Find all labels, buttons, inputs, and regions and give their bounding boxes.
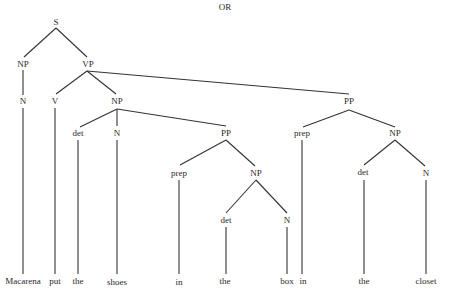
leaf-word: put [49,276,61,286]
node-det-object: det [73,128,84,138]
leaf-word: the [73,276,84,286]
node-np-outer: NP [389,128,401,138]
node-n-subject: N [20,96,27,106]
node-det-outer: det [358,167,369,177]
node-pp-inner: PP [221,128,231,138]
node-v: V [52,96,59,106]
leaf-word: the [359,276,370,286]
node-np-subject: NP [17,59,29,69]
leaf-word: closet [416,276,437,286]
node-prep-inner: prep [171,168,187,178]
leaf-word: box [280,276,294,286]
leaf-word: the [220,276,231,286]
diagram-title: OR [219,2,232,12]
tree-edges [0,0,449,295]
node-prep-outer: prep [294,128,310,138]
node-n-inner: N [284,215,291,225]
node-np-object: NP [111,96,123,106]
node-det-inner: det [221,215,232,225]
leaf-word: in [299,276,306,286]
node-np-inner: NP [250,168,262,178]
leaf-word: Macarena [5,276,40,286]
node-vp: VP [82,59,94,69]
node-s: S [53,17,58,27]
node-n-object: N [114,128,121,138]
node-n-outer: N [423,168,430,178]
leaf-word: in [175,277,182,287]
leaf-word: shoes [107,277,127,287]
node-pp-outer: PP [344,96,354,106]
